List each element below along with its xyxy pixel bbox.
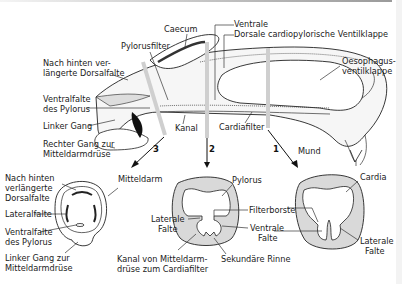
label-dorsale-valve: Dorsale cardiopylorische Ventilklappe: [234, 29, 388, 39]
label-right-duct-1: Rechter Gang zur: [43, 139, 115, 149]
label-dorsal-fold-2: längerte Dorsalfalte: [43, 68, 125, 78]
arrow-2-head: [204, 162, 210, 168]
label-s3-dorsal-2: verlängerte: [5, 183, 53, 193]
label-oesophagus-1: Oesophagus-: [342, 56, 396, 66]
section-marker-3: 3: [153, 144, 159, 154]
label-oesophagus-2: ventilklappe: [342, 66, 392, 76]
label-s3-dorsal-3: Dorsalfalte: [5, 193, 50, 203]
stomach-diagram: 3 2 1 Caecum Pylorusfilter Ventrale Dors…: [0, 0, 402, 284]
label-s3-duct-2: Mitteldarmdrüse: [5, 263, 73, 273]
label-caecum: Caecum: [164, 24, 197, 34]
label-dorsal-fold-1: Nach hinten ver-: [43, 58, 111, 68]
label-s3-mitteldarm: Mitteldarm: [118, 174, 163, 184]
label-left-duct: Linker Gang: [43, 121, 92, 131]
label-pylorusfilter: Pylorusfilter: [121, 41, 171, 51]
label-ventrale: Ventrale: [234, 19, 268, 29]
section-marker-2: 2: [209, 144, 215, 154]
label-mund: Mund: [298, 146, 321, 156]
label-kanal: Kanal: [175, 123, 198, 133]
label-s2-kanal-1: Kanal von Mitteldarm-: [117, 254, 207, 264]
label-s3-duct-1: Linker Gang zur: [5, 253, 70, 263]
label-s1-lateral-2: Falte: [365, 246, 385, 256]
label-cardiafilter: Cardiafilter: [219, 122, 265, 132]
label-right-duct-2: Mitteldarmdrüse: [43, 149, 111, 159]
label-s2-ventral-2: Falte: [258, 233, 278, 243]
label-s3-lateral: Lateralfalte: [5, 209, 52, 219]
label-s2-filterborsten: Filterborsten: [249, 205, 301, 215]
label-s3-ventral-2: des Pylorus: [5, 237, 52, 247]
label-s3-ventral-1: Ventralfalte: [5, 227, 52, 237]
label-s2-pylorus: Pylorus: [232, 175, 262, 185]
label-s1-cardia: Cardia: [360, 172, 386, 182]
label-s2-lateral-2: Falte: [158, 224, 178, 234]
label-ventral-fold-2: des Pylorus: [43, 104, 90, 114]
section-marker-1: 1: [273, 144, 279, 154]
longitudinal-section: 3 2 1 Caecum Pylorusfilter Ventrale Dors…: [43, 19, 396, 168]
label-s2-kanal-2: drüse zum Cardiafilter: [117, 264, 209, 274]
label-ventral-fold-1: Ventralfalte: [43, 94, 90, 104]
label-s1-lateral-1: Laterale: [360, 236, 394, 246]
label-s2-ventral-1: Ventrale: [250, 223, 284, 233]
leader-s3-mitteldarm: [108, 188, 118, 196]
label-s2-lateral-1: Laterale: [151, 214, 185, 224]
label-s3-dorsal-1: Nach hinten: [5, 173, 55, 183]
label-s2-sekundaer: Sekundäre Rinne: [221, 254, 291, 264]
cross-section-2: Pylorus Filterborsten Laterale Falte Ven…: [117, 175, 301, 274]
leader-s3-duct: [65, 242, 78, 253]
